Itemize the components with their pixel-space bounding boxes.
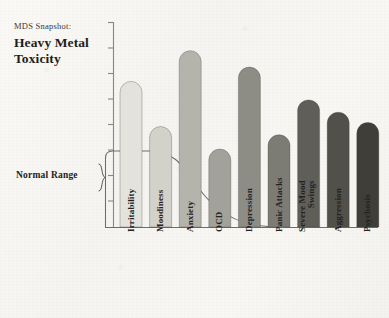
bar-depression[interactable] <box>238 67 260 227</box>
bar-panic-attacks[interactable] <box>268 135 290 227</box>
bar-irritability[interactable] <box>120 81 142 227</box>
bar-aggression[interactable] <box>327 112 349 227</box>
bar-anxiety[interactable] <box>179 51 201 227</box>
normal-range-brace <box>99 164 105 191</box>
chart-plot-area <box>0 0 389 318</box>
bar-moodiness[interactable] <box>150 127 172 227</box>
bar-psychosis[interactable] <box>357 122 379 227</box>
bar-ocd[interactable] <box>209 149 231 227</box>
bar-group <box>120 51 379 227</box>
y-axis-ticks <box>108 23 114 202</box>
chart-page: MDS Snapshot: Heavy Metal Toxicity Norma… <box>0 0 389 318</box>
bar-severe-mood-swings[interactable] <box>298 100 320 227</box>
